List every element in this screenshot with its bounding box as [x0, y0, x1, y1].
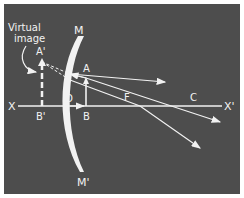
- ray-through-center: [70, 74, 220, 122]
- mirror-diagram: Virtual image M M' X X' A' B' A B O F C: [0, 0, 244, 198]
- concave-mirror: [63, 36, 85, 172]
- label-image-base: B': [36, 111, 46, 122]
- label-axis-right: X': [224, 100, 235, 113]
- virtual-ray-1: [42, 62, 70, 74]
- label-axis-left: X: [8, 100, 16, 113]
- label-mirror-bottom: M': [77, 176, 90, 189]
- annotation-line2: image: [14, 33, 45, 44]
- label-object-top: A: [83, 63, 90, 74]
- label-center: C: [190, 92, 197, 103]
- label-mirror-top: M: [74, 24, 84, 37]
- label-focus: F: [124, 92, 130, 103]
- label-image-top: A': [36, 46, 46, 57]
- label-object-base: B: [83, 111, 90, 122]
- label-pole: O: [65, 93, 73, 104]
- annotation-pointer: [22, 46, 36, 72]
- annotation-line1: Virtual: [8, 22, 41, 33]
